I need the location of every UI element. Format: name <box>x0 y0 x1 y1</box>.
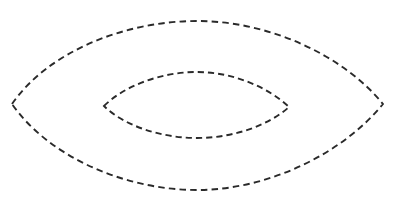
canvas-background <box>0 0 407 207</box>
lens-diagram-svg <box>0 0 407 207</box>
figure-canvas <box>0 0 407 207</box>
